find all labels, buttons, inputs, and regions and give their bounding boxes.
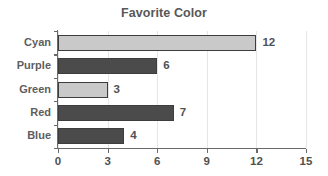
x-tick-label-9: 9 xyxy=(204,155,210,167)
value-label-red: 7 xyxy=(180,106,186,118)
value-label-purple: 6 xyxy=(163,59,169,71)
y-tick-cyan xyxy=(54,31,58,32)
value-label-green: 3 xyxy=(114,83,120,95)
y-tick-axis-end xyxy=(54,148,58,149)
gridline-x-15 xyxy=(306,31,307,148)
x-axis-line xyxy=(57,148,306,149)
value-label-blue: 4 xyxy=(130,129,136,141)
x-tick-9 xyxy=(207,149,208,153)
x-tick-label-3: 3 xyxy=(104,155,110,167)
x-tick-label-12: 12 xyxy=(250,155,263,167)
category-label-red: Red xyxy=(0,106,51,118)
category-label-cyan: Cyan xyxy=(0,36,51,48)
x-tick-15 xyxy=(306,149,307,153)
x-tick-label-0: 0 xyxy=(55,155,61,167)
category-label-blue: Blue xyxy=(0,129,51,141)
bar-chart-figure: Favorite Color 03691215Cyan12Purple6Gree… xyxy=(0,0,328,176)
gridline-x-12 xyxy=(256,31,257,148)
y-axis-line xyxy=(57,30,58,149)
x-tick-3 xyxy=(108,149,109,153)
y-tick-purple xyxy=(54,54,58,55)
x-tick-0 xyxy=(58,149,59,153)
category-label-purple: Purple xyxy=(0,59,51,71)
bar-blue[interactable] xyxy=(58,128,124,144)
x-tick-label-15: 15 xyxy=(300,155,313,167)
chart-title: Favorite Color xyxy=(0,6,328,20)
bar-green[interactable] xyxy=(58,82,108,98)
bar-cyan[interactable] xyxy=(58,35,256,51)
bar-purple[interactable] xyxy=(58,58,157,74)
bar-red[interactable] xyxy=(58,105,174,121)
y-tick-blue xyxy=(54,125,58,126)
x-tick-label-6: 6 xyxy=(154,155,160,167)
category-label-green: Green xyxy=(0,83,51,95)
value-label-cyan: 12 xyxy=(262,36,275,48)
x-tick-12 xyxy=(256,149,257,153)
x-tick-6 xyxy=(157,149,158,153)
y-tick-red xyxy=(54,101,58,102)
y-tick-green xyxy=(54,78,58,79)
plot-area xyxy=(58,31,306,148)
